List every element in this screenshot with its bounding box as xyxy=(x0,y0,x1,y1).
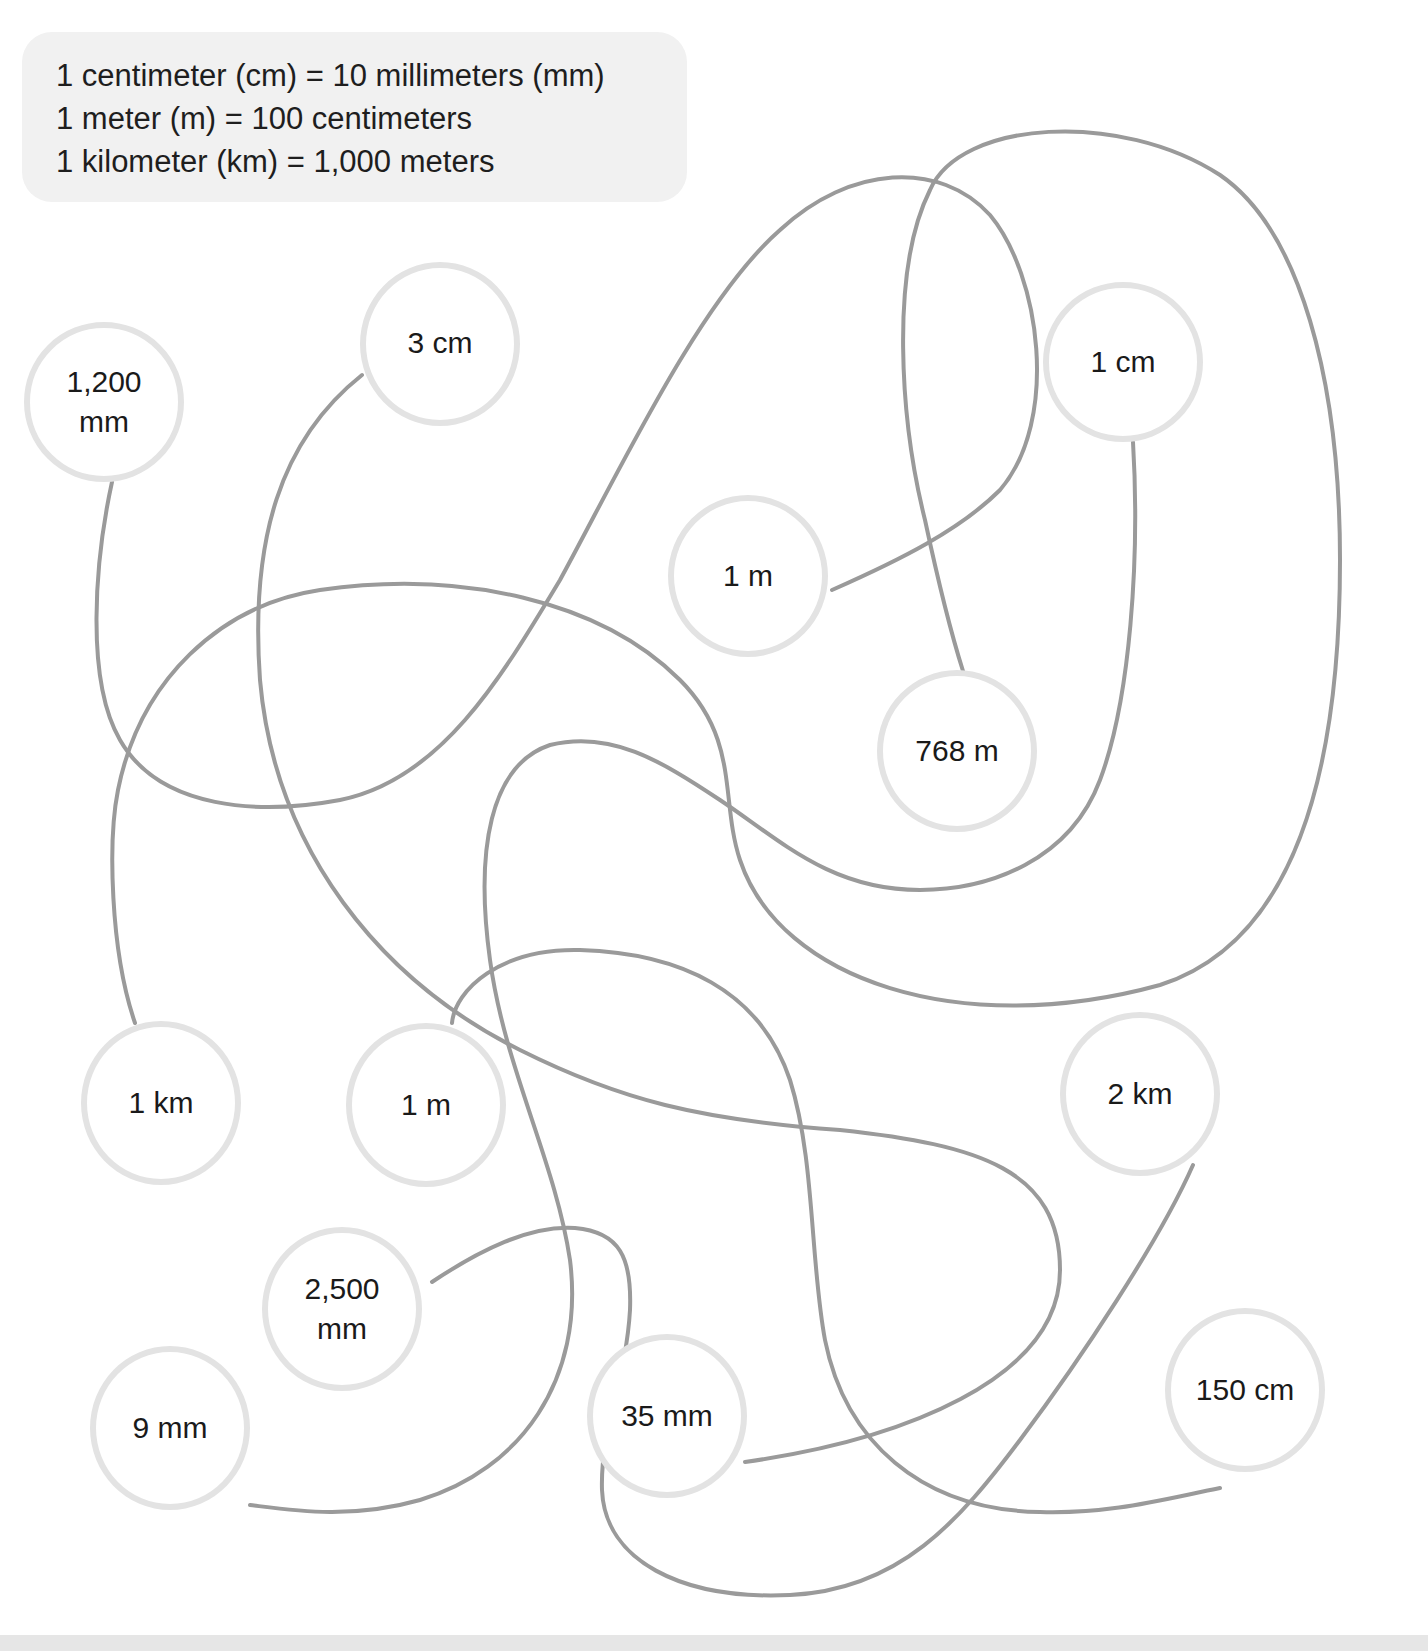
measure-label: 768 m xyxy=(915,731,998,771)
measure-circle-35mm[interactable]: 35 mm xyxy=(587,1334,747,1498)
measure-circle-150cm[interactable]: 150 cm xyxy=(1165,1308,1325,1472)
measure-circle-1cm[interactable]: 1 cm xyxy=(1043,282,1203,442)
measure-label: 2,500 mm xyxy=(304,1269,379,1349)
measure-circle-768m[interactable]: 768 m xyxy=(877,670,1037,832)
measure-label: 1 cm xyxy=(1090,342,1155,382)
measure-circle-1m-upper[interactable]: 1 m xyxy=(668,495,828,657)
measure-label: 1 km xyxy=(128,1083,193,1123)
measure-label: 1 m xyxy=(723,556,773,596)
measure-label: 3 cm xyxy=(407,323,472,363)
measure-label: 9 mm xyxy=(133,1408,208,1448)
measure-circle-9mm[interactable]: 9 mm xyxy=(90,1346,250,1510)
measure-circle-1km[interactable]: 1 km xyxy=(81,1021,241,1185)
measure-circle-3cm[interactable]: 3 cm xyxy=(360,262,520,426)
measure-label: 35 mm xyxy=(621,1396,713,1436)
page-bottom-edge xyxy=(0,1635,1428,1651)
measure-circle-2km[interactable]: 2 km xyxy=(1060,1012,1220,1176)
measure-label: 1,200 mm xyxy=(66,362,141,442)
measure-circle-1m-lower[interactable]: 1 m xyxy=(346,1023,506,1187)
measure-label: 150 cm xyxy=(1196,1370,1294,1410)
measure-circle-2500mm[interactable]: 2,500 mm xyxy=(262,1227,422,1391)
measure-label: 2 km xyxy=(1107,1074,1172,1114)
measure-label: 1 m xyxy=(401,1085,451,1125)
measure-circle-1200mm[interactable]: 1,200 mm xyxy=(24,322,184,482)
